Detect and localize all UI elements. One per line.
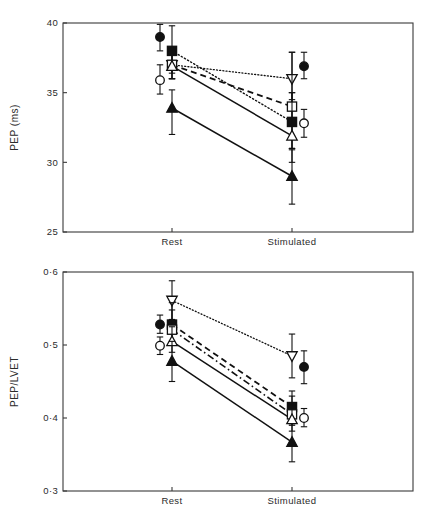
y-tick-label: 30 [47,157,58,168]
series-line-open-triangle [172,341,292,419]
y-tick-label: 35 [47,87,58,98]
y-tick-label: 0·5 [43,339,58,350]
series-lines [172,51,292,176]
data-point-filled-circle-stimulated [300,351,309,384]
figure-container: 40353025PEP (ms)RestStimulated 0·60·50·4… [0,0,425,519]
data-point-filled-triangle-rest [167,90,177,135]
y-axis-title: PEP (ms) [9,104,20,151]
series-line-filled-triangle [172,108,292,176]
y-tick-label: 25 [47,226,58,237]
y-tick-label: 0·6 [43,266,58,277]
data-point-filled-triangle-stimulated [287,424,297,462]
data-point-filled-triangle-stimulated [287,150,297,204]
y-axis: 40353025 [47,17,67,237]
chart-panel-pep: 40353025PEP (ms)RestStimulated [0,0,425,260]
plot-frame [63,23,413,232]
x-tick-label: Rest [161,236,182,247]
data-point-open-circle-rest [156,65,165,94]
y-axis-title: PEP/LVET [9,356,20,407]
data-point-filled-circle-rest [156,315,165,333]
data-point-filled-triangle-rest [167,341,177,381]
series-lines [172,300,292,442]
x-axis: RestStimulated [161,228,316,247]
data-point-open-down-triangle-stimulated [287,334,297,378]
pep-chart-svg: 40353025PEP (ms)RestStimulated [0,0,425,260]
data-point-open-circle-stimulated [300,109,309,137]
series-points [156,24,309,204]
data-point-open-circle-rest [156,337,165,355]
data-point-filled-circle-stimulated [300,52,309,78]
x-tick-label: Stimulated [268,495,317,506]
plot-frame [63,272,413,491]
data-point-filled-circle-rest [156,24,165,50]
ratio-chart-svg: 0·60·50·40·3PEP/LVETRestStimulated [0,260,425,519]
x-axis: RestStimulated [161,487,316,506]
x-tick-label: Rest [161,495,182,506]
data-point-open-circle-stimulated [300,409,309,427]
series-line-filled-square [172,325,292,407]
y-tick-label: 0·3 [43,485,58,496]
series-line-filled-triangle [172,361,292,442]
x-tick-label: Stimulated [268,236,317,247]
y-tick-label: 0·4 [43,412,58,423]
series-line-open-down-triangle [172,300,292,355]
chart-panel-ratio: 0·60·50·40·3PEP/LVETRestStimulated [0,260,425,519]
y-tick-label: 40 [47,17,58,28]
